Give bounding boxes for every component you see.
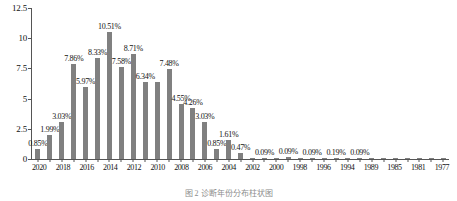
x-tick-label: 2008 xyxy=(174,163,188,172)
bar-slot: 0.47% xyxy=(235,8,247,159)
bar-slot xyxy=(425,8,437,159)
bar-slot xyxy=(342,8,354,159)
bar-slot xyxy=(402,8,414,159)
bar-slot: 4.55% xyxy=(175,8,187,159)
x-tick-label: 2010 xyxy=(150,163,164,172)
x-tick-mark xyxy=(85,159,86,162)
bar-slot: 0.85% xyxy=(32,8,44,159)
bar-slot: 8.71% xyxy=(127,8,139,159)
bar xyxy=(179,104,184,159)
x-tick-mark xyxy=(181,159,182,162)
x-tick-label: 1985 xyxy=(387,163,401,172)
x-tick-mark xyxy=(204,159,205,162)
y-tick-mark xyxy=(28,68,31,69)
x-tick-mark xyxy=(157,159,158,162)
x-tick-mark xyxy=(264,159,265,162)
x-tick-mark xyxy=(73,159,74,162)
x-tick-mark xyxy=(276,159,277,162)
bar xyxy=(107,32,112,159)
x-tick-mark xyxy=(49,159,50,162)
x-tick-mark xyxy=(97,159,98,162)
plot-area: 02.557.51012.5 0.85%1.99%3.03%7.86%5.97%… xyxy=(31,8,449,160)
bar-slot xyxy=(270,8,282,159)
x-tick-mark xyxy=(109,159,110,162)
bar xyxy=(95,58,100,159)
x-tick-label: 2002 xyxy=(245,163,259,172)
x-tick-mark xyxy=(371,159,372,162)
bar xyxy=(59,122,64,159)
x-tick-mark xyxy=(324,159,325,162)
y-tick-label: 12.5 xyxy=(1,4,27,13)
bar-slot xyxy=(414,8,426,159)
x-tick-mark xyxy=(252,159,253,162)
x-axis-labels: 2020.2018.2016.2014.2012.2010.2008.2006.… xyxy=(32,163,449,172)
x-tick-mark xyxy=(228,159,229,162)
x-tick-mark xyxy=(145,159,146,162)
bar-slot: 0.09% xyxy=(354,8,366,159)
bar xyxy=(35,149,40,159)
bar-slot xyxy=(294,8,306,159)
x-tick-mark xyxy=(347,159,348,162)
y-tick-mark xyxy=(28,159,31,160)
x-tick-mark xyxy=(169,159,170,162)
bar xyxy=(155,82,160,159)
x-tick-mark xyxy=(61,159,62,162)
bar xyxy=(214,149,219,159)
y-tick-mark xyxy=(28,99,31,100)
bar-slot xyxy=(318,8,330,159)
bar-slot: 7.48% xyxy=(163,8,175,159)
x-tick-mark xyxy=(121,159,122,162)
bar-slot xyxy=(151,8,163,159)
bar-slot: 0.09% xyxy=(306,8,318,159)
x-tick-label: 2014 xyxy=(103,163,117,172)
x-tick-mark xyxy=(359,159,360,162)
x-tick-label: 1981 xyxy=(411,163,425,172)
y-tick-label: 10 xyxy=(1,34,27,43)
x-tick-label: 2018 xyxy=(56,163,70,172)
bar xyxy=(131,54,136,159)
x-tick-mark xyxy=(336,159,337,162)
x-tick-label: 2012 xyxy=(127,163,141,172)
bar-slot: 0.19% xyxy=(330,8,342,159)
x-tick-label: 1977 xyxy=(435,163,449,172)
x-tick-mark xyxy=(395,159,396,162)
bar-slot xyxy=(366,8,378,159)
y-tick-mark xyxy=(28,38,31,39)
bar-slot: 1.99% xyxy=(44,8,56,159)
bar-slot xyxy=(247,8,259,159)
y-tick-label: 0 xyxy=(1,155,27,164)
y-tick-mark xyxy=(28,8,31,9)
x-tick-label: 1996 xyxy=(316,163,330,172)
bar xyxy=(47,135,52,159)
y-tick-label: 5 xyxy=(1,95,27,104)
y-tick-mark xyxy=(28,129,31,130)
bar-slot: 1.61% xyxy=(223,8,235,159)
bar-slot: 6.34% xyxy=(139,8,151,159)
x-tick-mark xyxy=(240,159,241,162)
x-tick-mark xyxy=(300,159,301,162)
bar xyxy=(143,82,148,159)
x-tick-label: 1998 xyxy=(293,163,307,172)
y-tick-label: 2.5 xyxy=(1,125,27,134)
bar-chart-figure: 02.557.51012.5 0.85%1.99%3.03%7.86%5.97%… xyxy=(0,0,457,201)
bar xyxy=(83,87,88,159)
x-tick-label: 2006 xyxy=(198,163,212,172)
x-tick-label: 1989 xyxy=(364,163,378,172)
bar-slot xyxy=(378,8,390,159)
bar-slot xyxy=(437,8,449,159)
y-tick-label: 7.5 xyxy=(1,64,27,73)
bar-slot: 5.97% xyxy=(80,8,92,159)
bar-slot: 10.51% xyxy=(104,8,116,159)
x-tick-label: 2004 xyxy=(222,163,236,172)
x-tick-mark xyxy=(407,159,408,162)
bar xyxy=(119,67,124,159)
x-tick-mark xyxy=(419,159,420,162)
x-tick-label: 2020 xyxy=(32,163,46,172)
bar-series: 0.85%1.99%3.03%7.86%5.97%8.33%10.51%7.58… xyxy=(32,8,449,159)
bar-slot: 3.03% xyxy=(56,8,68,159)
bar-slot: 4.26% xyxy=(187,8,199,159)
x-tick-mark xyxy=(312,159,313,162)
bar-slot: 3.03% xyxy=(199,8,211,159)
x-tick-mark xyxy=(37,159,38,162)
x-tick-mark xyxy=(431,159,432,162)
